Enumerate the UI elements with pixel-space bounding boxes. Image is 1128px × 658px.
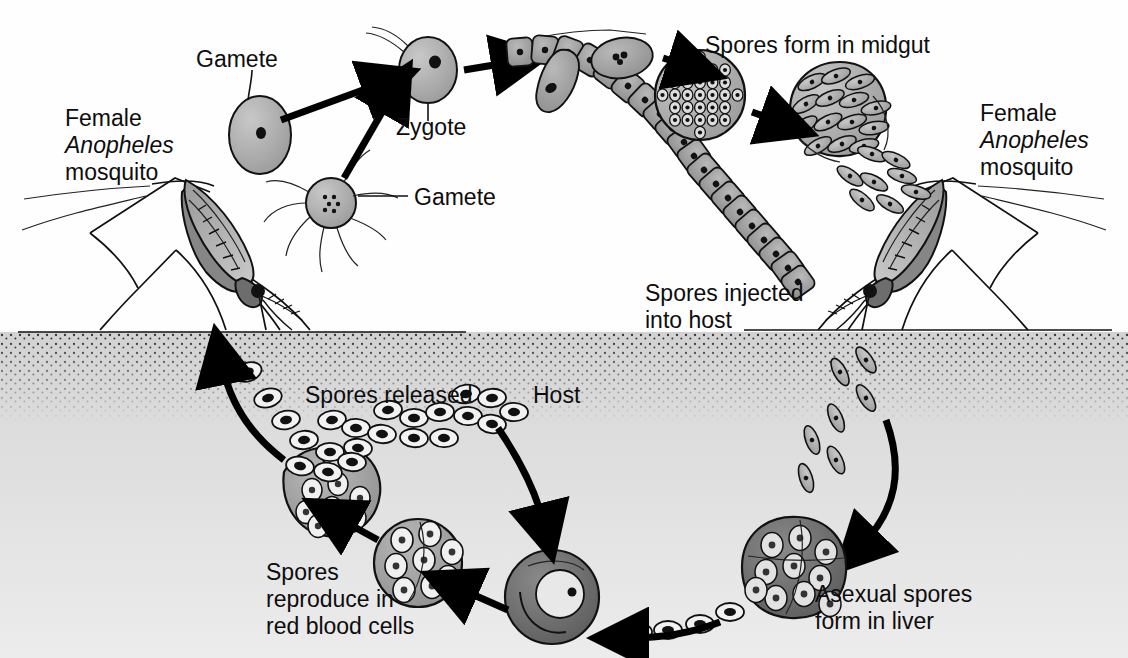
skin-surface-line xyxy=(18,330,1112,332)
label-zygote: Zygote xyxy=(396,114,466,140)
oocyst-developing xyxy=(655,50,745,140)
oocyst-ruptured xyxy=(788,62,892,162)
label-mosquito-left-line3: mosquito xyxy=(65,159,158,185)
label-spores-reproduce-line2: reproduce in xyxy=(266,586,394,612)
label-anopheles-left: Anopheles xyxy=(63,132,174,158)
label-spores-injected-line2: into host xyxy=(645,307,733,333)
label-spores-reproduce-line1: Spores xyxy=(266,559,339,585)
malaria-life-cycle-figure: Female Anopheles mosquito Female Anophel… xyxy=(0,0,1128,658)
macrogamete-cell xyxy=(229,96,291,174)
microgamete-cell xyxy=(264,150,398,272)
label-mosquito-right-line3: mosquito xyxy=(980,154,1073,180)
midgut-epithelium xyxy=(506,30,932,301)
label-gamete-top: Gamete xyxy=(196,46,278,72)
label-host: Host xyxy=(533,382,581,408)
label-anopheles-right: Anopheles xyxy=(978,127,1089,153)
mosquito-left-body xyxy=(182,180,302,330)
label-female-right-line1: Female xyxy=(980,100,1057,126)
label-spores-released: Spores released xyxy=(305,382,473,408)
diagram-canvas: Female Anopheles mosquito Female Anophel… xyxy=(0,0,1128,658)
label-spores-injected-line1: Spores injected xyxy=(645,280,804,306)
label-spores-form-in-midgut: Spores form in midgut xyxy=(705,32,931,58)
mosquito-left xyxy=(22,178,310,330)
zygote-cell xyxy=(366,27,457,103)
gamete-top-leader xyxy=(248,70,252,100)
label-female-left-line1: Female xyxy=(65,105,142,131)
infected-red-blood-cell xyxy=(505,550,599,644)
label-gamete-bottom: Gamete xyxy=(414,184,496,210)
label-asexual-line2: form in liver xyxy=(815,608,934,634)
label-asexual-line1: Asexual spores xyxy=(815,581,972,607)
label-spores-reproduce-line3: red blood cells xyxy=(266,613,414,639)
